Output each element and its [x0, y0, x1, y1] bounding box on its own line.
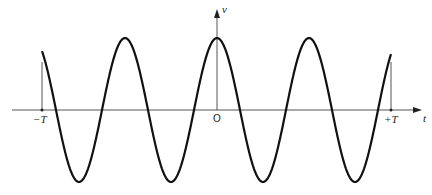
horizontal-axis-label: t — [423, 113, 426, 124]
pos-T-label: +T — [384, 114, 398, 125]
neg-T-label: −T — [33, 114, 47, 125]
pos-T-point — [390, 109, 393, 112]
vertical-axis-label: v — [222, 4, 227, 15]
origin-label: O — [213, 114, 221, 124]
voltage-axis-arrow-icon — [214, 9, 220, 18]
waveform-diagram — [0, 0, 432, 195]
time-axis-arrow-icon — [413, 107, 422, 113]
neg-T-point — [41, 109, 44, 112]
